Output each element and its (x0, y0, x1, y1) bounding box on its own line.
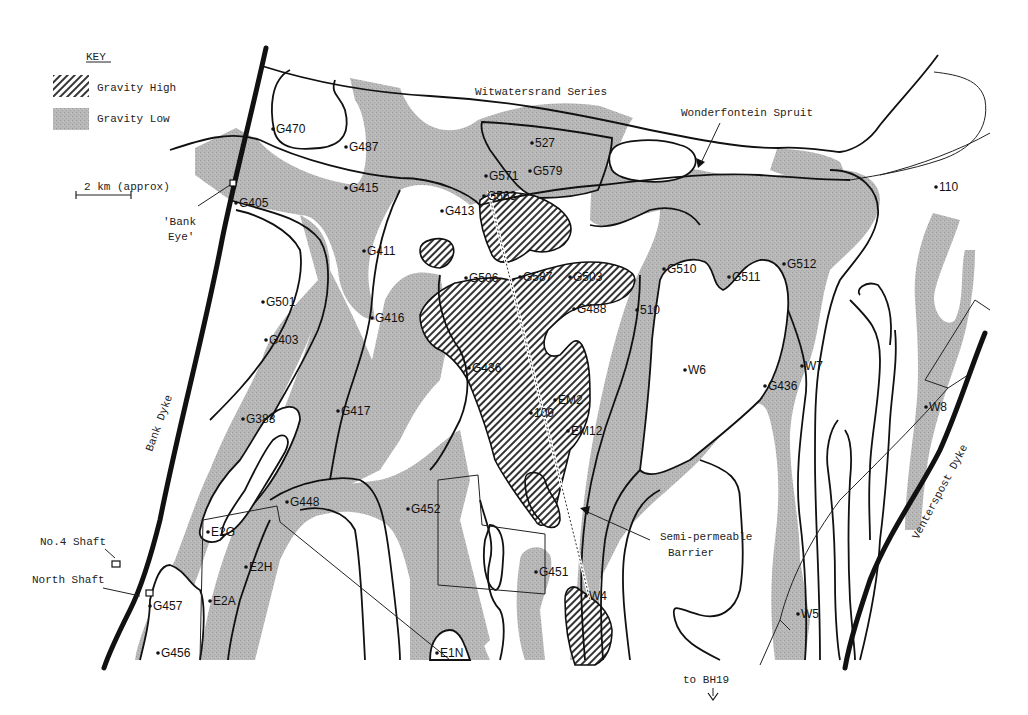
contour-line (674, 460, 743, 660)
borehole-point: EM12 (566, 424, 602, 438)
borehole-dot-icon (635, 308, 639, 312)
borehole-label: G456 (161, 646, 191, 660)
borehole-point: G451 (534, 565, 568, 579)
borehole-dot-icon (234, 201, 238, 205)
borehole-dot-icon (727, 275, 731, 279)
borehole-point: EM2 (553, 393, 583, 407)
contour-line (484, 525, 504, 590)
no4-shaft-pointer (105, 549, 115, 558)
barrier-label-line1: Semi-permeable (660, 531, 752, 543)
borehole-label: E2H (249, 560, 272, 574)
borehole-point: G413 (440, 204, 474, 218)
contour-line (827, 420, 840, 660)
borehole-label: G587 (523, 270, 553, 284)
borehole-label: G451 (539, 565, 569, 579)
borehole-point: G411 (362, 244, 396, 258)
borehole-point: G436 (467, 361, 501, 375)
borehole-label: G452 (411, 502, 441, 516)
borehole-dot-icon (208, 599, 212, 603)
borehole-dot-icon (156, 651, 160, 655)
borehole-label: 110 (939, 180, 958, 194)
borehole-dot-icon (528, 169, 532, 173)
borehole-dot-icon (285, 500, 289, 504)
borehole-label: W5 (801, 607, 819, 621)
borehole-label: G506 (469, 271, 499, 285)
borehole-label: G487 (349, 140, 379, 154)
borehole-point: G452 (406, 502, 440, 516)
bank-eye-marker (230, 180, 236, 186)
borehole-point: G448 (285, 495, 319, 509)
borehole-point: G512 (782, 257, 816, 271)
borehole-dot-icon (530, 141, 534, 145)
borehole-dot-icon (796, 612, 800, 616)
wonderfontein-spruit-label: Wonderfontein Spruit (681, 107, 813, 119)
borehole-point: G506 (464, 271, 498, 285)
gravity-low-swatch (53, 108, 89, 130)
borehole-point: G436 (763, 379, 797, 393)
borehole-point: E2H (244, 560, 272, 574)
key-title: KEY (86, 51, 106, 63)
borehole-dot-icon (782, 262, 786, 266)
no4-shaft-marker (112, 561, 120, 567)
scale-bar: 2 km (approx) (76, 181, 170, 199)
borehole-point: G405 (234, 196, 268, 210)
borehole-label: G405 (239, 196, 269, 210)
borehole-label: G501 (266, 295, 296, 309)
borehole-point: G511 (727, 270, 761, 284)
witwatersrand-series-label: Witwatersrand Series (475, 86, 607, 98)
borehole-label: G416 (375, 311, 405, 325)
borehole-point: G579 (528, 164, 562, 178)
borehole-label: G511 (732, 270, 761, 284)
borehole-dot-icon (467, 366, 471, 370)
borehole-label: W8 (929, 400, 947, 414)
borehole-point: G587 (518, 270, 552, 284)
borehole-point: G403 (264, 333, 298, 347)
map-key: KEY Gravity High Gravity Low (53, 51, 176, 130)
barrier-label-line2: Barrier (668, 547, 714, 559)
borehole-dot-icon (370, 316, 374, 320)
borehole-point: 110 (934, 180, 958, 194)
borehole-dot-icon (244, 565, 248, 569)
borehole-label: 109 (534, 406, 554, 420)
bank-eye-label-line2: Eye' (168, 231, 194, 243)
borehole-dot-icon (683, 368, 687, 372)
contour-line (850, 300, 880, 540)
borehole-label: G563 (487, 189, 517, 203)
borehole-label: G488 (577, 302, 607, 316)
white-pocket-g470 (272, 70, 347, 149)
no4-shaft-label: No.4 Shaft (40, 536, 106, 548)
borehole-label: G415 (349, 181, 379, 195)
borehole-dot-icon (344, 145, 348, 149)
borehole-point: E2G (206, 525, 235, 539)
borehole-label: G436 (768, 379, 798, 393)
borehole-label: G571 (489, 169, 519, 183)
borehole-dot-icon (464, 276, 468, 280)
borehole-point: G415 (344, 181, 378, 195)
borehole-dot-icon (763, 384, 767, 388)
borehole-label: G417 (341, 404, 371, 418)
borehole-label: W4 (589, 589, 607, 603)
white-pocket-spruit (609, 140, 696, 181)
borehole-label: G403 (269, 333, 299, 347)
north-shaft-pointer (103, 588, 140, 596)
bank-eye-label-line1: 'Bank (163, 216, 196, 228)
borehole-dot-icon (662, 267, 666, 271)
key-gravity-low-label: Gravity Low (97, 113, 170, 125)
borehole-point: G510 (662, 262, 696, 276)
borehole-label: W7 (805, 359, 823, 373)
key-gravity-high-label: Gravity High (97, 82, 176, 94)
borehole-dot-icon (553, 398, 557, 402)
borehole-label: G448 (290, 495, 320, 509)
borehole-point: G571 (484, 169, 518, 183)
borehole-label: G413 (445, 204, 475, 218)
borehole-label: G512 (787, 257, 817, 271)
borehole-dot-icon (148, 604, 152, 608)
spruit-pointer (700, 123, 720, 165)
contour-line (300, 508, 365, 660)
borehole-dot-icon (484, 174, 488, 178)
borehole-dot-icon (206, 530, 210, 534)
geological-map: KEY Gravity High Gravity Low 2 km (appro… (0, 0, 1028, 715)
borehole-label: E2G (211, 525, 235, 539)
borehole-dot-icon (584, 594, 588, 598)
bh19-label: to BH19 (683, 674, 729, 686)
